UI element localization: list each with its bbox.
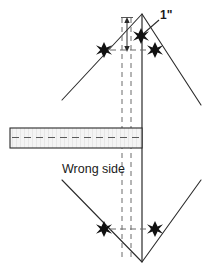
fabric-strip: [10, 128, 142, 148]
dimension-leader-line: [143, 20, 159, 34]
figure-root: 1" Wrong side: [0, 0, 211, 276]
lower-left-arm: [62, 180, 142, 262]
dimension-label-1-inch: 1": [160, 8, 172, 22]
upper-left-arm: [62, 14, 142, 100]
top-left-star-icon: [96, 42, 112, 58]
fabric-folding-diagram: [0, 0, 211, 276]
bottom-right-star-icon: [147, 221, 163, 237]
top-right-star-icon: [147, 42, 163, 58]
wrong-side-label: Wrong side: [62, 162, 125, 176]
lower-right-arm: [142, 180, 201, 262]
dimension-arrow-head-bottom: [124, 46, 129, 52]
